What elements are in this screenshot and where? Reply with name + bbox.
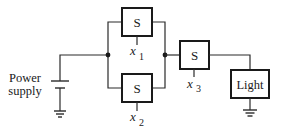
light-load: Light — [231, 70, 269, 116]
ground-icon — [243, 110, 257, 116]
switch-s1-var: x — [129, 43, 136, 58]
switch-s2-var: x — [129, 109, 136, 124]
switch-s1-label: S — [133, 15, 140, 30]
switch-s2: S x 2 — [122, 74, 152, 128]
switch-s1-sub: 1 — [139, 51, 144, 62]
switch-s2-sub: 2 — [139, 117, 144, 128]
switch-s3-var: x — [186, 76, 193, 91]
s3-to-light-wire — [209, 55, 250, 70]
circuit-diagram: Power supply S x 1 S x 2 S x 3 Light — [0, 0, 285, 136]
switch-s3: S x 3 — [180, 41, 209, 94]
switch-s2-label: S — [133, 81, 140, 96]
switch-s1: S x 1 — [122, 8, 152, 62]
switch-s3-label: S — [191, 48, 198, 63]
power-supply-label-line1: Power — [9, 71, 42, 85]
junction-dot-left — [106, 53, 111, 58]
ground-icon — [54, 111, 66, 117]
switch-s3-sub: 3 — [196, 83, 201, 94]
supply-wire — [60, 55, 108, 81]
light-label: Light — [236, 78, 264, 92]
power-supply: Power supply — [8, 55, 108, 117]
power-supply-label-line2: supply — [8, 84, 42, 98]
